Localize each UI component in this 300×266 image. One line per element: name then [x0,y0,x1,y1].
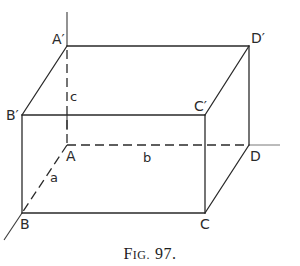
label-D: D [250,148,261,164]
label-c-height: c [70,89,77,104]
label-A: A [66,148,76,164]
label-D-prime: D′ [251,30,265,46]
label-B-prime: B′ [6,107,19,123]
caption-number: 97. [155,245,177,262]
caption-initial: F [123,245,132,262]
label-C-prime: C′ [194,98,207,114]
label-b-width: b [143,150,151,165]
label-a-depth: a [50,170,58,185]
edge-C-D [205,145,249,213]
dimension-labels: c b a [50,89,151,185]
cuboid-figure: A′ D′ B′ C′ A D B C c b a FIG.97. [0,0,300,266]
label-C: C [200,216,210,232]
label-A-prime: A′ [52,31,65,47]
edge-A-B-hidden [22,145,67,213]
vertex-labels: A′ D′ B′ C′ A D B C [6,30,265,232]
visible-edges [22,46,249,213]
caption-smallcaps: IG. [133,248,150,262]
edge-D1-C1 [205,46,249,115]
hidden-edges [22,50,249,213]
figure-caption: FIG.97. [123,245,176,262]
edge-A1-B1 [22,46,67,115]
label-B: B [20,216,30,232]
